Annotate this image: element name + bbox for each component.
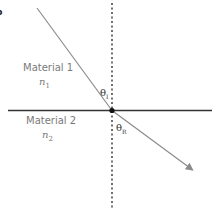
intersection-point: [109, 108, 114, 113]
material-2-index: n2: [42, 130, 53, 143]
material-1-index: n1: [39, 77, 50, 90]
material-2-label: Material 2: [26, 116, 76, 126]
incident-angle-label: θI: [100, 88, 108, 100]
material-1-label: Material 1: [23, 63, 73, 73]
refraction-diagram: [0, 0, 212, 209]
refracted-ray: [112, 111, 192, 170]
refracted-angle-label: θR: [116, 123, 127, 135]
